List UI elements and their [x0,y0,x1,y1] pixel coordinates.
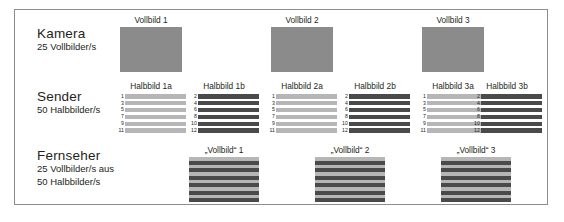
half-frame-2b: 24681012 [340,93,410,134]
scan-line-bar [481,101,542,105]
caption-halbbild-2b: Halbbild 2b [338,82,412,90]
scan-line-number: 5 [418,107,427,112]
scan-line-number: 6 [340,107,349,112]
full-frame-1 [120,27,182,72]
scan-line-number: 2 [189,94,198,99]
row-label-sender: Sender 50 Halbbilder/s [37,89,100,117]
caption-vollbild-1: Vollbild 1 [116,16,186,24]
caption-halbbild-3b: Halbbild 3b [470,82,544,90]
tv-frame-2 [315,157,385,202]
caption-tv-vollbild-2: „Vollbild“ 2 [312,146,388,154]
scan-line-number: 7 [267,114,276,119]
scan-line-number: 3 [267,101,276,106]
caption-halbbild-1a: Halbbild 1a [114,82,188,90]
scan-line-number: 3 [418,101,427,106]
scan-line: 4 [340,100,410,107]
scan-line: 6 [189,107,259,114]
scan-line-bar [481,94,542,98]
caption-tv-vollbild-1: „Vollbild“ 1 [186,146,262,154]
scan-line: 3 [116,100,186,107]
scan-line-bar [276,122,337,126]
scan-line-number: 2 [472,94,481,99]
scan-line-number: 4 [472,101,481,106]
scan-line-bar [349,128,410,132]
scan-line-number: 1 [418,94,427,99]
scan-line-number: 12 [472,128,481,133]
scan-line: 3 [267,100,337,107]
half-frame-2a: 1357911 [267,93,337,134]
scan-line: 1 [116,93,186,100]
scan-line-bar [125,128,186,132]
scan-line-number: 11 [418,128,427,133]
scan-line: 8 [189,114,259,121]
scan-line-number: 8 [472,114,481,119]
scan-line: 6 [472,107,542,114]
half-frame-1b: 24681012 [189,93,259,134]
scan-line: 7 [116,114,186,121]
interlace-line [189,198,259,202]
half-frame-1a: 1357911 [116,93,186,134]
scan-line: 11 [267,127,337,134]
scan-line: 10 [472,120,542,127]
interlace-line [315,198,385,202]
scan-line-bar [349,108,410,112]
scan-line: 4 [472,100,542,107]
full-frame-2 [271,27,333,72]
row-sub-kamera-1: 25 Vollbilder/s [37,41,96,54]
scan-line-bar [276,94,337,98]
row-label-fernseher: Fernseher 25 Vollbilder/s aus 50 Halbbil… [37,148,114,188]
tv-frame-3 [441,157,511,202]
scan-line-bar [481,115,542,119]
scan-line-bar [349,115,410,119]
scan-line-bar [198,122,259,126]
row-sub-fernseher-2: 50 Halbbilder/s [37,176,114,189]
scan-line-bar [125,94,186,98]
scan-line-number: 6 [189,107,198,112]
scan-line-number: 8 [189,114,198,119]
scan-line-number: 6 [472,107,481,112]
scan-line: 5 [267,107,337,114]
scan-line-number: 4 [189,101,198,106]
scan-line: 12 [189,127,259,134]
scan-line: 9 [116,120,186,127]
caption-tv-vollbild-3: „Vollbild“ 3 [438,146,514,154]
scan-line-number: 11 [116,128,125,133]
full-frame-3 [422,27,484,72]
tv-frame-1 [189,157,259,202]
scan-line-number: 7 [116,114,125,119]
row-title-fernseher: Fernseher [37,148,114,163]
scan-line: 1 [267,93,337,100]
scan-line-number: 7 [418,114,427,119]
scan-line: 10 [189,120,259,127]
scan-line: 8 [340,114,410,121]
scan-line-bar [198,94,259,98]
scan-line: 7 [267,114,337,121]
scan-line-number: 9 [267,121,276,126]
caption-halbbild-1b: Halbbild 1b [187,82,261,90]
scan-line-number: 12 [189,128,198,133]
scan-line-number: 12 [340,128,349,133]
row-label-kamera: Kamera 25 Vollbilder/s [37,26,96,54]
scan-line-number: 9 [116,121,125,126]
scan-line-bar [198,108,259,112]
scan-line-number: 9 [418,121,427,126]
scan-line: 12 [340,127,410,134]
scan-line-number: 1 [116,94,125,99]
row-sub-sender-1: 50 Halbbilder/s [37,104,100,117]
scan-line: 10 [340,120,410,127]
scan-line: 2 [472,93,542,100]
scan-line-bar [198,128,259,132]
scan-line-bar [276,108,337,112]
scan-line-number: 5 [267,107,276,112]
scan-line-number: 10 [189,121,198,126]
scan-line: 5 [116,107,186,114]
scan-line-bar [276,101,337,105]
scan-line-number: 10 [340,121,349,126]
scan-line-bar [125,108,186,112]
scan-line: 11 [116,127,186,134]
scan-line-bar [198,101,259,105]
scan-line: 9 [267,120,337,127]
row-sub-fernseher-1: 25 Vollbilder/s aus [37,163,114,176]
scan-line-bar [276,128,337,132]
scan-line-number: 5 [116,107,125,112]
